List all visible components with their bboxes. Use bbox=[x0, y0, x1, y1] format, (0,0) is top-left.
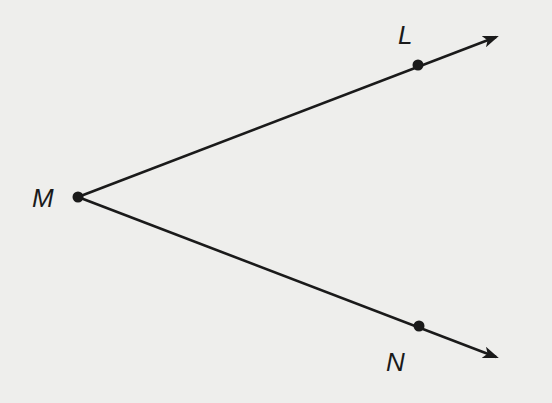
point-N-dot bbox=[414, 321, 425, 332]
label-L: L bbox=[398, 22, 412, 48]
angle-figure bbox=[0, 0, 552, 403]
angle-diagram: M L N bbox=[0, 0, 552, 403]
ray-ML bbox=[78, 37, 496, 197]
point-M-dot bbox=[73, 192, 84, 203]
ray-MN bbox=[78, 197, 496, 357]
label-N: N bbox=[386, 349, 405, 375]
label-M: M bbox=[32, 185, 54, 211]
point-L-dot bbox=[413, 60, 424, 71]
